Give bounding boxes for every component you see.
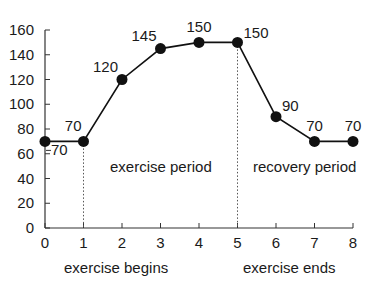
y-tick-label: 140 [9,46,34,63]
data-label: 70 [65,117,82,134]
x-tick-label: 3 [156,234,164,251]
x-tick-label: 7 [310,234,318,251]
data-label: 150 [244,24,269,41]
x-tick-label: 6 [272,234,280,251]
x-tick-label: 5 [233,234,241,251]
data-label: 145 [131,27,156,44]
data-point-marker [271,111,282,122]
y-tick-label: 60 [17,145,34,162]
y-tick-label: 120 [9,71,34,88]
x-tick-label: 8 [349,234,357,251]
data-point-marker [309,136,320,147]
data-label: 120 [93,58,118,75]
data-point-marker [232,37,243,48]
data-point-marker [40,136,51,147]
data-point-marker [117,74,128,85]
data-label: 90 [282,97,299,114]
x-tick-label: 2 [118,234,126,251]
x-tick-label: 1 [79,234,87,251]
data-point-marker [155,43,166,54]
exercise-begins-label: exercise begins [64,259,168,276]
x-tick-label: 0 [41,234,49,251]
data-point-marker [348,136,359,147]
data-point-marker [78,136,89,147]
y-tick-label: 160 [9,21,34,38]
data-label: 70 [51,141,68,158]
line-chart: 020406080100120140160012345678 707012014… [0,0,372,288]
y-tick-label: 80 [17,120,34,137]
y-tick-label: 100 [9,95,34,112]
data-point-marker [194,37,205,48]
data-label: 150 [186,18,211,35]
y-tick-label: 40 [17,170,34,187]
x-tick-label: 4 [195,234,203,251]
exercise-ends-label: exercise ends [243,259,336,276]
data-label: 70 [345,117,362,134]
data-label: 70 [306,117,323,134]
y-tick-label: 20 [17,194,34,211]
y-tick-label: 0 [26,219,34,236]
exercise-period-label: exercise period [110,158,212,175]
recovery-period-label: recovery period [253,158,356,175]
